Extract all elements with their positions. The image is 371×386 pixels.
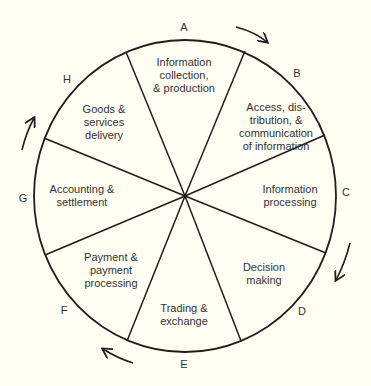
segment-f-label: Payment & payment processing <box>84 251 138 290</box>
segment-h-label: Goods & services delivery <box>83 103 126 142</box>
segment-b-label: Access, dis- tribution, & communication … <box>239 101 313 153</box>
segment-c-label: Information processing <box>262 183 317 209</box>
letter-e: E <box>180 358 187 370</box>
letter-c: C <box>342 186 350 198</box>
letter-h: H <box>63 73 71 85</box>
segment-d-label: Decision making <box>243 261 285 287</box>
segment-a-label: Information collection, & production <box>153 56 215 95</box>
letter-b: B <box>293 67 300 79</box>
arrow-left-icon <box>22 118 34 150</box>
letter-f: F <box>61 304 68 316</box>
arrow-bottom-left-icon <box>103 349 133 363</box>
arrow-right-icon <box>336 243 350 280</box>
letter-d: D <box>298 305 306 317</box>
letter-a: A <box>180 21 187 33</box>
segment-e-label: Trading & exchange <box>160 302 208 328</box>
arrow-top-right-icon <box>236 27 267 42</box>
segment-g-label: Accounting & settlement <box>50 183 115 209</box>
letter-g: G <box>19 192 28 204</box>
